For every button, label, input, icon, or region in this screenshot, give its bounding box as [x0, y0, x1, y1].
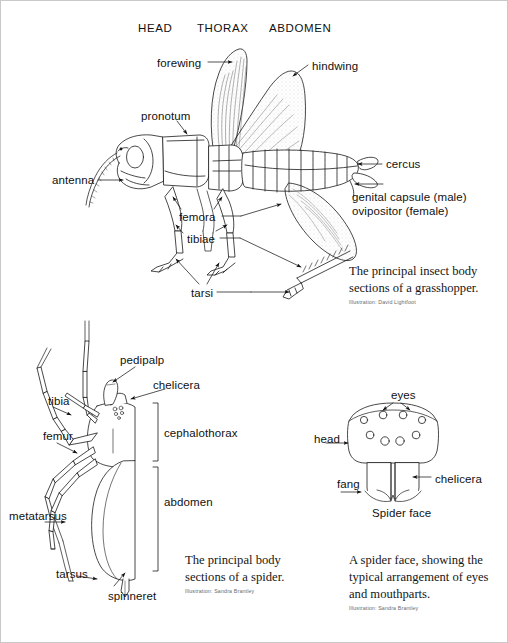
insect-caption-line2: sections of a grasshopper. [349, 280, 508, 297]
leader-femora-3 [241, 204, 281, 216]
head-shape [116, 135, 164, 189]
spider-caption-line2: sections of a spider. [185, 569, 315, 586]
label-tarsus: tarsus [56, 567, 88, 582]
insect-caption: The principal insect body sections of a … [349, 263, 508, 305]
pronotum-shape [163, 135, 209, 187]
spider-face-caption: A spider face, showing the typical arran… [349, 552, 508, 611]
abdomen-bracket [153, 467, 158, 571]
face-caption-line2: typical arrangement of eyes [349, 569, 508, 586]
label-forewing: forewing [157, 56, 201, 71]
spider-caption-credit: Illustration: Sandra Brantley [185, 588, 315, 594]
leader-pedipalp [113, 367, 135, 382]
label-chelicera-side: chelicera [153, 378, 200, 393]
label-femur: femur [43, 429, 73, 444]
figure-page: HEAD THORAX ABDOMEN forewing hindwing pr… [0, 0, 508, 643]
leader-tibiae-3 [240, 238, 301, 267]
face-caption-credit: Illustration: Sandra Brantley [349, 605, 508, 611]
section-header-thorax: THORAX [197, 21, 249, 36]
label-femora: femora [179, 210, 215, 225]
cephalothorax-bracket [153, 403, 158, 461]
leader-tarsi-1 [176, 259, 199, 284]
leader-femur [57, 443, 77, 453]
insect-caption-line1: The principal insect body [349, 263, 508, 280]
spider-caption: The principal body sections of a spider.… [185, 552, 315, 594]
label-head: head [314, 432, 340, 447]
label-tarsi: tarsi [191, 286, 213, 301]
spider-face-drawing [348, 403, 439, 502]
section-header-abdomen: ABDOMEN [269, 21, 331, 36]
label-chelicera-face: chelicera [435, 472, 482, 487]
label-eyes: eyes [391, 388, 416, 403]
face-caption-line1: A spider face, showing the [349, 552, 508, 569]
label-abdomen: abdomen [164, 495, 213, 510]
spider-caption-line1: The principal body [185, 552, 315, 569]
grasshopper-drawing [86, 49, 378, 299]
label-pronotum: pronotum [141, 109, 190, 124]
leader-hindwing [293, 65, 308, 76]
label-ovipositor: ovipositor (female) [352, 204, 449, 219]
label-spinneret: spinneret [108, 589, 156, 604]
label-metatarsus: metatarsus [9, 509, 67, 524]
section-header-head: HEAD [138, 21, 172, 36]
label-cephalothorax: cephalothorax [164, 426, 238, 441]
label-fang: fang [337, 477, 360, 492]
label-antenna: antenna [52, 173, 94, 188]
label-tibiae: tibiae [187, 232, 215, 247]
label-cercus: cercus [386, 157, 420, 172]
anatomy-illustration [1, 1, 508, 643]
label-hindwing: hindwing [312, 59, 358, 74]
thorax-shape [209, 145, 243, 191]
leader-tibiae-2 [216, 225, 227, 231]
spider-leg-second [65, 393, 99, 417]
label-genital-capsule: genital capsule (male) [352, 190, 467, 205]
label-spider-face-title: Spider face [372, 506, 431, 521]
label-tibia: tibia [48, 394, 70, 409]
front-leg-shape [151, 187, 183, 272]
label-pedipalp: pedipalp [120, 353, 164, 368]
insect-caption-credit: Illustration: David Lightfoot [349, 299, 508, 305]
face-caption-line3: and mouthparts. [349, 586, 508, 603]
